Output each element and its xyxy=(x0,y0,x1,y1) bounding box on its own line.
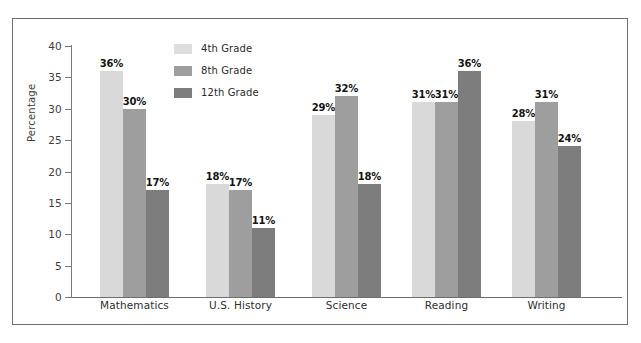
bar-value-label: 36% xyxy=(100,58,123,69)
y-axis-tick-label: 15 xyxy=(36,197,62,209)
bar-slot: 28% xyxy=(512,46,535,297)
bar-value-label: 24% xyxy=(558,133,581,144)
y-axis-tick-label: 20 xyxy=(36,166,62,178)
y-axis-tick-label: 5 xyxy=(36,260,62,272)
chart-legend: 4th Grade8th Grade12th Grade xyxy=(174,40,259,106)
y-axis-title: Percentage xyxy=(26,84,37,142)
bar-value-label: 17% xyxy=(229,177,252,188)
bar-value-label: 36% xyxy=(458,58,481,69)
bar[interactable] xyxy=(335,96,358,297)
bar-group-bars: 29%32%18% xyxy=(312,46,381,297)
bar[interactable] xyxy=(512,121,535,297)
legend-swatch-icon xyxy=(174,66,192,76)
bar-slot: 18% xyxy=(358,46,381,297)
x-axis-category-label: Reading xyxy=(425,299,468,311)
y-axis-tick-label: 35 xyxy=(36,71,62,83)
bar[interactable] xyxy=(146,190,169,297)
bar[interactable] xyxy=(458,71,481,297)
bar[interactable] xyxy=(229,190,252,297)
bar-slot: 31% xyxy=(535,46,558,297)
bar-slot: 32% xyxy=(335,46,358,297)
legend-swatch-icon xyxy=(174,44,192,54)
y-axis-tick-label: 25 xyxy=(36,134,62,146)
y-axis-tick xyxy=(65,46,72,47)
legend-item-label: 8th Grade xyxy=(201,65,252,76)
y-axis-tick xyxy=(65,172,72,173)
bar[interactable] xyxy=(206,184,229,297)
bar[interactable] xyxy=(558,146,581,297)
bar-value-label: 17% xyxy=(146,177,169,188)
x-axis-line xyxy=(71,297,622,298)
bar[interactable] xyxy=(252,228,275,297)
plot-area: 36%30%17%Mathematics18%17%11%U.S. Histor… xyxy=(72,46,624,297)
bar-value-label: 31% xyxy=(435,89,458,100)
x-axis-category-label: U.S. History xyxy=(209,299,272,311)
bar-slot: 31% xyxy=(412,46,435,297)
legend-item[interactable]: 12th Grade xyxy=(174,84,259,101)
y-axis-tick xyxy=(65,77,72,78)
bar-value-label: 31% xyxy=(535,89,558,100)
legend-item-label: 4th Grade xyxy=(201,43,252,54)
bar-value-label: 18% xyxy=(206,171,229,182)
bar-value-label: 18% xyxy=(358,171,381,182)
bar[interactable] xyxy=(312,115,335,297)
bar[interactable] xyxy=(358,184,381,297)
bar-slot: 36% xyxy=(100,46,123,297)
y-axis-tick xyxy=(65,109,72,110)
legend-item[interactable]: 8th Grade xyxy=(174,62,259,79)
y-axis-tick xyxy=(65,297,72,298)
bar-slot: 17% xyxy=(146,46,169,297)
bar[interactable] xyxy=(412,102,435,297)
x-axis-category-label: Writing xyxy=(527,299,565,311)
y-axis-tick-label: 40 xyxy=(36,40,62,52)
bar-group-bars: 36%30%17% xyxy=(100,46,169,297)
bar-slot: 24% xyxy=(558,46,581,297)
y-axis-tick xyxy=(65,234,72,235)
bar-value-label: 28% xyxy=(512,108,535,119)
legend-item[interactable]: 4th Grade xyxy=(174,40,259,57)
bar-value-label: 30% xyxy=(123,96,146,107)
bar-value-label: 29% xyxy=(312,102,335,113)
y-axis-tick-label: 30 xyxy=(36,103,62,115)
bar[interactable] xyxy=(535,102,558,297)
y-axis-tick xyxy=(65,140,72,141)
bar[interactable] xyxy=(123,109,146,297)
figure: 0510152025303540 Percentage 36%30%17%Mat… xyxy=(0,0,641,343)
legend-item-label: 12th Grade xyxy=(201,87,259,98)
bar-group: 29%32%18%Science xyxy=(312,46,381,297)
bar-value-label: 32% xyxy=(335,83,358,94)
bar-group: 31%31%36%Reading xyxy=(412,46,481,297)
x-axis-category-label: Mathematics xyxy=(100,299,169,311)
y-axis-tick-label: 10 xyxy=(36,228,62,240)
bar-group: 28%31%24%Writing xyxy=(512,46,581,297)
y-axis-tick-label: 0 xyxy=(36,291,62,303)
bar-value-label: 31% xyxy=(412,89,435,100)
x-axis-category-label: Science xyxy=(326,299,367,311)
y-axis-tick-labels: 0510152025303540 xyxy=(30,0,62,343)
y-axis-tick xyxy=(65,266,72,267)
bar-group: 36%30%17%Mathematics xyxy=(100,46,169,297)
bar-group-bars: 28%31%24% xyxy=(512,46,581,297)
bar-slot: 36% xyxy=(458,46,481,297)
bar-group-bars: 31%31%36% xyxy=(412,46,481,297)
bar-value-label: 11% xyxy=(252,215,275,226)
bar[interactable] xyxy=(435,102,458,297)
bar-slot: 30% xyxy=(123,46,146,297)
bar[interactable] xyxy=(100,71,123,297)
y-axis-tick xyxy=(65,203,72,204)
bar-slot: 31% xyxy=(435,46,458,297)
legend-swatch-icon xyxy=(174,88,192,98)
bar-slot: 29% xyxy=(312,46,335,297)
